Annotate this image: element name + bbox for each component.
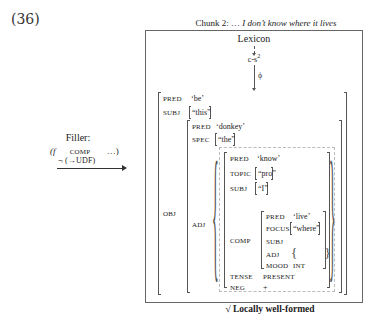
arrow-down-icon — [252, 88, 256, 91]
empty-set-braces: { } — [291, 245, 343, 261]
cut-off-text-line — [0, 0, 370, 2]
figure-title: Chunk 2: … I don’t know where it lives — [180, 18, 352, 28]
attr-comp: COMP — [230, 237, 251, 245]
attr-subj: SUBJ — [266, 238, 283, 246]
value-be: ‘be’ — [191, 94, 204, 103]
outer-left-bracket — [158, 92, 161, 295]
attr-subj: SUBJ — [230, 185, 247, 193]
cs-label: c-s2 — [145, 53, 363, 64]
value-int: INT — [293, 262, 305, 270]
value-pro: “pro” — [258, 169, 276, 178]
title-prefix: Chunk 2: … — [195, 18, 240, 28]
phi-label: ϕ — [258, 71, 262, 80]
attr-obj: OBJ — [163, 210, 176, 218]
attr-pred: PRED — [163, 95, 182, 103]
value-plus: + — [263, 283, 268, 292]
value-the: “the” — [218, 135, 235, 144]
attr-neg: NEG — [230, 284, 245, 292]
attr-mood: MOOD — [266, 262, 288, 270]
value-where: “where” — [293, 224, 320, 233]
value-present: PRESENT — [263, 273, 295, 281]
filler-arrow-line — [57, 168, 125, 169]
filler-label: Filler: — [38, 132, 118, 143]
filler-expression: (f COMP …) — [50, 146, 119, 156]
value-this: “this” — [192, 108, 211, 117]
filler-constraint: ¬ (→UDF) — [58, 156, 95, 165]
status-well-formed: √ Locally well-formed — [195, 304, 345, 314]
topic-left-bracket — [255, 167, 257, 180]
attr-tense: TENSE — [230, 273, 253, 281]
value-donkey: ‘donkey’ — [216, 122, 245, 131]
attr-topic: TOPIC — [230, 170, 251, 178]
value-know: ‘know’ — [257, 154, 280, 163]
obj-left-bracket — [187, 120, 190, 293]
attr-adj: ADJ — [192, 221, 205, 229]
example-number: (36) — [11, 11, 40, 27]
value-live: ‘live’ — [293, 212, 310, 221]
title-sentence: I don’t know where it lives — [242, 18, 336, 28]
attr-pred: PRED — [192, 123, 211, 131]
attr-subj: SUBJ — [163, 109, 180, 117]
focus-left-bracket — [290, 222, 292, 235]
subj-left-bracket — [189, 106, 191, 119]
attr-adj: ADJ — [266, 251, 279, 259]
attr-pred: PRED — [230, 155, 249, 163]
attr-spec: SPEC — [192, 136, 210, 144]
subj-left-bracket — [255, 182, 257, 195]
attr-focus: FOCUS — [266, 225, 290, 233]
arrow-right-icon — [122, 165, 127, 171]
adj-left-brace: { — [212, 146, 219, 293]
lexicon-label: Lexicon — [145, 33, 363, 44]
adj-member-right-bracket — [327, 152, 330, 288]
attr-pred: PRED — [266, 213, 285, 221]
phi-arrow-line — [254, 65, 255, 89]
adj-member-left-bracket — [224, 152, 227, 288]
obj-right-bracket — [339, 120, 342, 293]
value-i: “I” — [258, 184, 268, 193]
comp-left-bracket — [261, 211, 264, 269]
outer-right-bracket — [344, 92, 347, 295]
